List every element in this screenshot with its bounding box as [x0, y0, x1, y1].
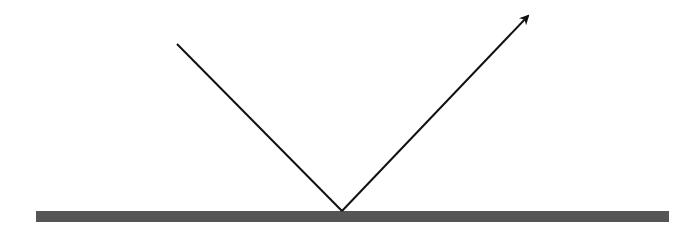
reflection-diagram — [0, 0, 693, 237]
incident-ray — [177, 44, 342, 211]
reflected-ray — [342, 16, 528, 211]
reflecting-surface — [36, 211, 669, 222]
